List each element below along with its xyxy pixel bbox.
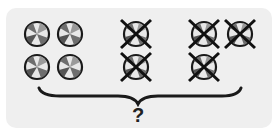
crossed-ball-icon [225, 20, 255, 48]
crossed-balls-group-1 [121, 20, 151, 81]
question-mark: ? [128, 104, 148, 127]
ball-icon [58, 55, 82, 79]
ball-icon [25, 22, 49, 46]
crossed-ball-icon [189, 53, 219, 81]
ball-icon [25, 55, 49, 79]
crossed-ball-icon [121, 53, 151, 81]
crossed-balls-group-2 [189, 20, 255, 81]
remaining-balls-group [25, 22, 82, 79]
curly-brace-icon [39, 88, 241, 104]
ball-icon [58, 22, 82, 46]
crossed-ball-icon [189, 20, 219, 48]
crossed-ball-icon [121, 20, 151, 48]
